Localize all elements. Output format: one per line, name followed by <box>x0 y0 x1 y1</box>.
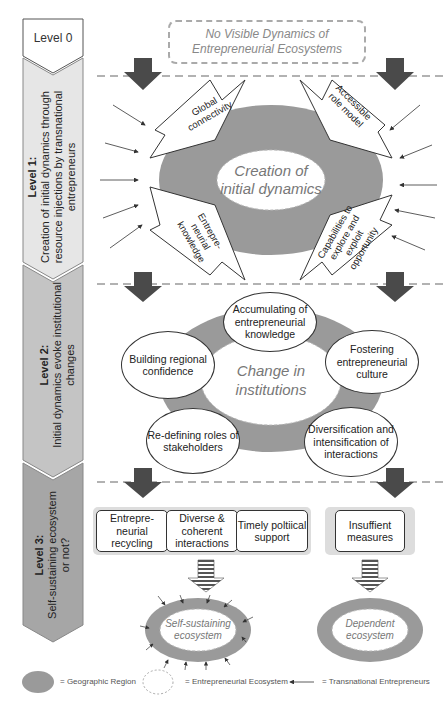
box-insufficient-measures: Insuffient measures <box>335 510 405 552</box>
level0-box: No Visible Dynamics of Entrepreneurial E… <box>168 20 366 64</box>
legend-region-symbol <box>22 671 54 693</box>
outcome-dependent: Dependent ecosystem <box>335 612 405 648</box>
box-entrepreneurial-recycling: Entrepre-neurial recycling <box>96 510 168 552</box>
box-timely-support: Timely poltiical support <box>236 510 308 552</box>
legend-transnational-label: = Transnational Entrepreneurs <box>322 677 430 686</box>
outcome-self-sustaining: Self-sustaining ecosystem <box>163 612 233 648</box>
circle-diversification: Diversification and intensification of i… <box>304 407 398 477</box>
level0-label: Level 0 <box>23 28 83 48</box>
level2-center-label: Change in institutions <box>220 355 322 405</box>
level1-center-label: Creation of initial dynamics <box>220 152 322 208</box>
circle-fostering-culture: Fostering entrepreneurial culture <box>325 330 419 394</box>
legend-ecosystem-label: = Entrepreneurial Ecosystem <box>185 677 288 686</box>
circle-accumulating-knowledge: Accumulating of entrepreneurial knowledg… <box>223 292 317 352</box>
circle-building-confidence: Building regional confidence <box>121 331 215 399</box>
level2-label: Level 2: Initial dynamics evoke institut… <box>38 275 68 455</box>
box-diverse-interactions: Diverse & coherent interactions <box>166 510 238 552</box>
level3-label: Level 3: Self-sustaining ecosystem or no… <box>33 490 73 620</box>
legend-ecosystem-symbol <box>143 670 173 694</box>
legend-region-label: = Geographic Region <box>60 677 136 686</box>
level1-label: Level 1: Creation of initial dynamics th… <box>26 85 80 269</box>
circle-redefining-roles: Re-defining roles of stakeholders <box>146 408 240 474</box>
